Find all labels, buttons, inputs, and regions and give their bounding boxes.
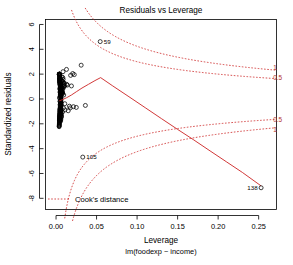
y-tick-label: 0 <box>27 97 36 101</box>
contour-label-1-negative: 1 <box>273 126 277 133</box>
x-tick-label: 0.00 <box>49 222 63 231</box>
y-tick-label: -8 <box>27 195 36 202</box>
y-tick-label: -4 <box>27 145 36 152</box>
y-tick-label: 4 <box>27 47 36 51</box>
x-axis-label: Leverage <box>144 236 179 245</box>
contour-label-0.5-positive: 0.5 <box>273 74 282 81</box>
point-label-105: 105 <box>86 153 97 160</box>
y-tick-label: 2 <box>27 72 36 76</box>
x-axis-sublabel: lm(foodexp ~ income) <box>125 247 196 256</box>
chart-canvas: Residuals vs Leverage 59105138 10.50.51 … <box>0 0 293 265</box>
x-tick-label: 0.05 <box>89 222 103 231</box>
point-label-138: 138 <box>247 184 258 191</box>
cooks-distance-legend-label: Cook's distance <box>75 195 128 204</box>
residuals-vs-leverage-plot: Residuals vs Leverage 59105138 10.50.51 … <box>0 0 293 265</box>
y-axis-label: Standardized residuals <box>4 72 13 155</box>
x-tick-label: 0.15 <box>170 222 184 231</box>
y-tick-label: -6 <box>27 170 36 177</box>
plot-background <box>0 0 293 265</box>
chart-title: Residuals vs Leverage <box>120 6 203 15</box>
y-tick-label: 6 <box>27 22 36 26</box>
point-label-59: 59 <box>104 38 111 45</box>
x-tick-label: 0.25 <box>251 222 265 231</box>
y-tick-label: -2 <box>27 121 36 128</box>
x-tick-label: 0.10 <box>130 222 144 231</box>
x-tick-label: 0.20 <box>211 222 225 231</box>
contour-label-1-positive: 1 <box>273 64 277 71</box>
contour-label-0.5-negative: 0.5 <box>273 116 282 123</box>
